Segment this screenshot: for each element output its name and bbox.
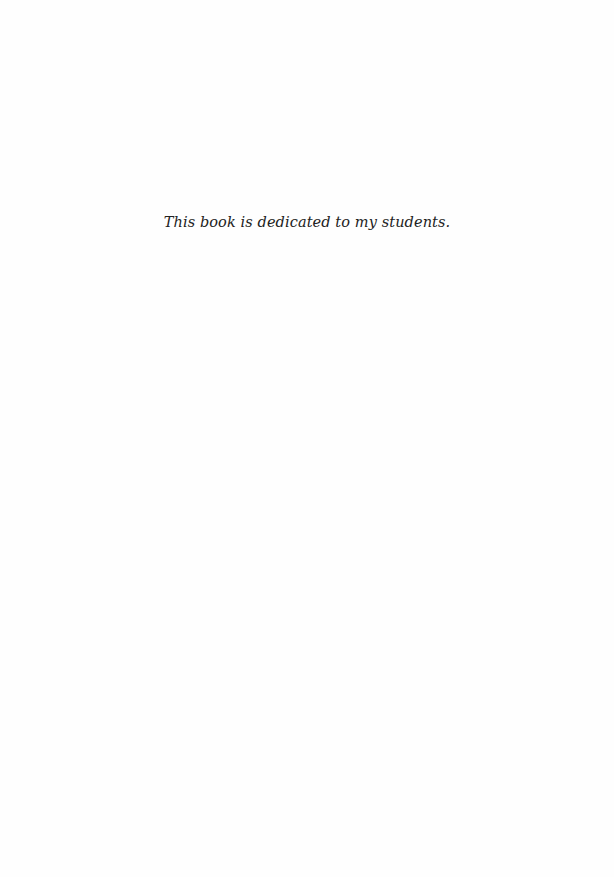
document-page: This book is dedicated to my students. — [0, 0, 614, 877]
dedication-text: This book is dedicated to my students. — [0, 212, 614, 232]
